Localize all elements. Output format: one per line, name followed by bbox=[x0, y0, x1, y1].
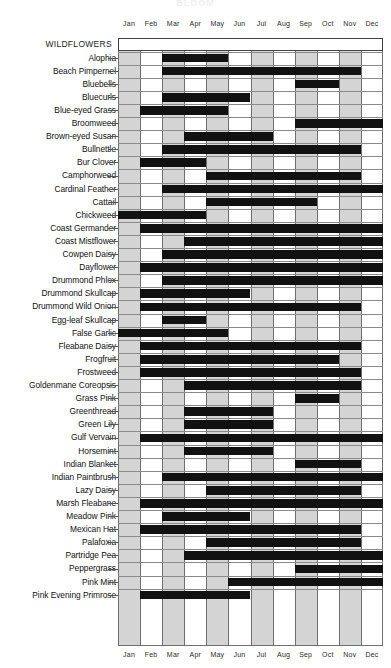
species-row[interactable]: Mexican Hat bbox=[0, 523, 391, 536]
species-row[interactable]: Greenthread bbox=[0, 405, 391, 418]
species-row[interactable]: Partridge Pea bbox=[0, 549, 391, 562]
row-leader-tick bbox=[108, 385, 118, 386]
bloom-bar[interactable] bbox=[118, 329, 228, 338]
species-row[interactable]: Horsemint bbox=[0, 445, 391, 458]
species-row[interactable]: Bullnettle bbox=[0, 143, 391, 156]
species-row[interactable]: Broomweed bbox=[0, 117, 391, 130]
bloom-bar[interactable] bbox=[206, 538, 361, 547]
bloom-bar[interactable] bbox=[295, 565, 383, 574]
row-leader-tick bbox=[108, 110, 118, 111]
species-row[interactable]: Pink Mint bbox=[0, 576, 391, 589]
bloom-bar[interactable] bbox=[162, 145, 361, 154]
bloom-bar[interactable] bbox=[140, 591, 250, 600]
species-row[interactable]: Cowpen Daisy bbox=[0, 248, 391, 261]
row-gridline bbox=[118, 78, 383, 79]
bloom-bar[interactable] bbox=[162, 473, 383, 482]
bloom-bar[interactable] bbox=[162, 185, 383, 194]
species-row[interactable]: Meadow Pink bbox=[0, 510, 391, 523]
species-row[interactable]: Indian Blanket bbox=[0, 458, 391, 471]
species-row[interactable]: Indian Paintbrush bbox=[0, 471, 391, 484]
species-row[interactable]: Camphorweed bbox=[0, 169, 391, 182]
species-row[interactable]: Green Lily bbox=[0, 418, 391, 431]
species-row[interactable]: Brown-eyed Susan bbox=[0, 130, 391, 143]
bloom-bar[interactable] bbox=[162, 67, 361, 76]
bloom-bar[interactable] bbox=[162, 512, 250, 521]
bloom-bar[interactable] bbox=[140, 224, 383, 233]
species-row[interactable]: Bluecurls bbox=[0, 91, 391, 104]
row-leader-tick bbox=[108, 503, 118, 504]
bloom-bar[interactable] bbox=[140, 303, 361, 312]
month-label-jan: Jan bbox=[118, 20, 140, 29]
species-row[interactable]: Coast Mistflower bbox=[0, 235, 391, 248]
bloom-bar[interactable] bbox=[184, 551, 383, 560]
bloom-bar[interactable] bbox=[184, 447, 272, 456]
species-row[interactable]: Cardinal Feather bbox=[0, 183, 391, 196]
species-row[interactable]: False Garlic bbox=[0, 327, 391, 340]
species-row[interactable]: Alophia bbox=[0, 52, 391, 65]
bloom-bar[interactable] bbox=[162, 316, 206, 325]
species-row[interactable]: Dayflower bbox=[0, 261, 391, 274]
bloom-bar[interactable] bbox=[206, 198, 316, 207]
species-row[interactable]: Egg-leaf Skullcap bbox=[0, 314, 391, 327]
species-row[interactable]: Beach Pimpernel bbox=[0, 65, 391, 78]
species-row[interactable]: Frogfruit bbox=[0, 353, 391, 366]
bloom-bar[interactable] bbox=[140, 263, 383, 272]
row-leader-tick bbox=[108, 424, 118, 425]
species-row[interactable]: Pink Evening Primrose bbox=[0, 589, 391, 602]
species-row[interactable]: Lazy Daisy bbox=[0, 484, 391, 497]
species-row[interactable]: Cattail bbox=[0, 196, 391, 209]
bloom-bar[interactable] bbox=[140, 499, 383, 508]
bloom-bar[interactable] bbox=[162, 250, 383, 259]
bloom-bar[interactable] bbox=[162, 276, 383, 285]
row-gridline bbox=[118, 562, 383, 563]
bloom-bar[interactable] bbox=[140, 106, 228, 115]
species-row[interactable]: Drummond Skullcap bbox=[0, 287, 391, 300]
bloom-bar[interactable] bbox=[206, 486, 361, 495]
species-row[interactable]: Bur Clover bbox=[0, 156, 391, 169]
bloom-bar[interactable] bbox=[162, 93, 250, 102]
row-gridline bbox=[118, 589, 383, 590]
row-gridline bbox=[118, 300, 383, 301]
bloom-bar[interactable] bbox=[295, 80, 339, 89]
species-row[interactable]: Gulf Vervain bbox=[0, 431, 391, 444]
bloom-bar[interactable] bbox=[295, 460, 361, 469]
species-row[interactable]: Fleabane Daisy bbox=[0, 340, 391, 353]
species-row[interactable]: Chickweed bbox=[0, 209, 391, 222]
species-row[interactable]: Drummond Wild Onion bbox=[0, 300, 391, 313]
row-leader-tick bbox=[108, 176, 118, 177]
bloom-bar[interactable] bbox=[295, 119, 383, 128]
bloom-bar[interactable] bbox=[118, 211, 206, 220]
bloom-bar[interactable] bbox=[184, 381, 361, 390]
bloom-chart-page: BLOOM JanFebMarAprMayJunJulAugSepOctNovD… bbox=[0, 0, 391, 668]
row-gridline bbox=[118, 235, 383, 236]
species-row[interactable]: Palafoxia bbox=[0, 536, 391, 549]
bloom-bar[interactable] bbox=[140, 525, 361, 534]
species-label: Drummond Wild Onion bbox=[32, 301, 116, 311]
row-gridline bbox=[118, 91, 383, 92]
species-row[interactable]: Frostweed bbox=[0, 366, 391, 379]
bloom-bar[interactable] bbox=[140, 158, 206, 167]
bloom-bar[interactable] bbox=[206, 172, 361, 181]
bloom-bar[interactable] bbox=[228, 578, 383, 587]
species-row[interactable]: Drummond Phlox bbox=[0, 274, 391, 287]
species-row[interactable]: Coast Germander bbox=[0, 222, 391, 235]
bloom-bar[interactable] bbox=[184, 237, 383, 246]
bloom-bar[interactable] bbox=[184, 407, 272, 416]
bloom-bar[interactable] bbox=[140, 434, 383, 443]
species-row[interactable]: Bluebells bbox=[0, 78, 391, 91]
bloom-bar[interactable] bbox=[295, 394, 339, 403]
species-row[interactable]: Marsh Fleabane bbox=[0, 497, 391, 510]
row-gridline bbox=[118, 248, 383, 249]
bloom-bar[interactable] bbox=[140, 368, 361, 377]
species-row[interactable]: Blue-eyed Grass bbox=[0, 104, 391, 117]
row-gridline bbox=[118, 497, 383, 498]
bloom-bar[interactable] bbox=[140, 342, 361, 351]
species-row[interactable]: Goldenmane Coreopsis bbox=[0, 379, 391, 392]
bloom-bar[interactable] bbox=[184, 420, 272, 429]
bloom-bar[interactable] bbox=[140, 355, 339, 364]
bloom-bar[interactable] bbox=[140, 289, 250, 298]
bloom-bar[interactable] bbox=[162, 54, 228, 63]
bloom-bar[interactable] bbox=[184, 132, 272, 141]
species-row[interactable]: Peppergrass bbox=[0, 562, 391, 575]
species-row[interactable]: Grass Pink bbox=[0, 392, 391, 405]
